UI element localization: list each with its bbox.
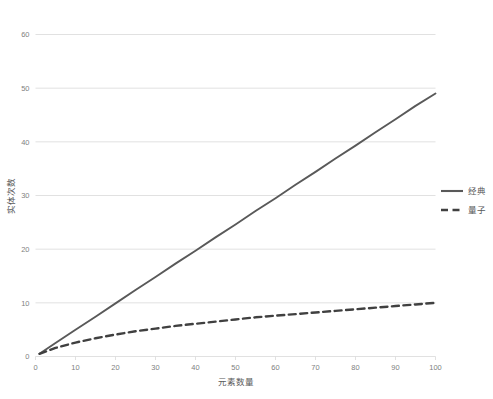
chart-container: 01020304050600102030405060708090100元素数量实… <box>0 0 493 399</box>
line-chart: 01020304050600102030405060708090100元素数量实… <box>0 0 493 399</box>
x-tick-label-0: 0 <box>33 363 37 372</box>
y-tick-label-40: 40 <box>21 138 29 147</box>
x-tick-label-100: 100 <box>429 363 442 372</box>
y-tick-label-0: 0 <box>25 352 29 361</box>
legend-label-quantum: 量子 <box>468 205 486 215</box>
x-tick-label-10: 10 <box>71 363 79 372</box>
y-tick-label-60: 60 <box>21 30 29 39</box>
y-tick-label-30: 30 <box>21 191 29 200</box>
x-tick-label-90: 90 <box>391 363 399 372</box>
x-tick-label-20: 20 <box>111 363 119 372</box>
x-tick-label-80: 80 <box>351 363 359 372</box>
x-tick-label-60: 60 <box>271 363 279 372</box>
x-axis-title: 元素数量 <box>218 377 254 387</box>
legend-label-classical: 经典 <box>468 186 486 196</box>
x-tick-label-70: 70 <box>311 363 319 372</box>
x-tick-label-50: 50 <box>231 363 239 372</box>
y-tick-label-20: 20 <box>21 245 29 254</box>
y-tick-label-10: 10 <box>21 299 29 308</box>
y-tick-label-50: 50 <box>21 84 29 93</box>
x-tick-label-30: 30 <box>151 363 159 372</box>
y-axis-title: 实体次数 <box>6 178 16 214</box>
x-tick-label-40: 40 <box>191 363 199 372</box>
